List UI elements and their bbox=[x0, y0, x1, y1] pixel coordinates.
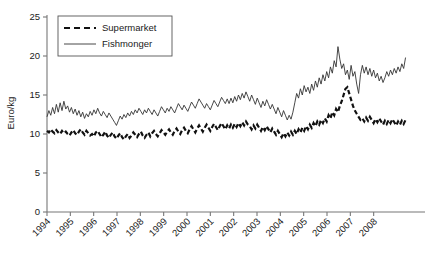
y-tick-label: 20 bbox=[29, 50, 40, 61]
y-axis-title: Euro/kg bbox=[5, 97, 16, 130]
y-tick-label: 15 bbox=[29, 89, 40, 100]
chart-legend: SupermarketFishmonger bbox=[58, 16, 172, 56]
chart-figure: 0510152025 19941995199619971998199920002… bbox=[0, 0, 425, 265]
legend-label-fishmonger: Fishmonger bbox=[102, 38, 152, 49]
price-time-series-chart: 0510152025 19941995199619971998199920002… bbox=[0, 0, 425, 265]
y-tick-label: 10 bbox=[29, 128, 40, 139]
y-tick-label: 0 bbox=[35, 206, 40, 217]
legend-label-supermarket: Supermarket bbox=[102, 22, 157, 33]
y-tick-label: 5 bbox=[35, 167, 40, 178]
y-tick-label: 25 bbox=[29, 11, 40, 22]
